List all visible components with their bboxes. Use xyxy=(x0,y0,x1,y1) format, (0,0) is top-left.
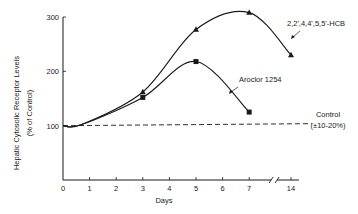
control-sublabel: (±10-20%) xyxy=(311,121,346,130)
x-tick-label: 0 xyxy=(61,184,65,193)
series-group xyxy=(63,9,294,127)
series-line-aroclor xyxy=(63,61,249,127)
x-tick-label: 6 xyxy=(221,184,225,193)
x-tick-label: 2 xyxy=(114,184,118,193)
y-axis-sublabel: (% of Control) xyxy=(25,89,34,136)
marker-aroclor xyxy=(140,95,145,100)
marker-aroclor xyxy=(247,110,252,115)
y-tick-label: 200 xyxy=(46,67,59,76)
x-axis-label: Days xyxy=(155,196,172,205)
x-tick-label: 3 xyxy=(141,184,145,193)
y-axis-label: Hepatic Cytosolic Receptor Levels xyxy=(12,56,21,170)
y-tick-label: 100 xyxy=(46,122,59,131)
series-line-hcb xyxy=(63,11,291,127)
marker-aroclor xyxy=(194,59,199,64)
y-tick-label: 300 xyxy=(46,13,59,22)
control-reference-line xyxy=(63,124,312,126)
x-tick-label: 7 xyxy=(247,184,251,193)
x-tick-label: 4 xyxy=(167,184,171,193)
hcb-annotation: 2,2',4,4',5,5'-HCB xyxy=(287,19,345,28)
reference-line-group xyxy=(63,124,312,126)
chart: 0123456714100200300 Hepatic Cytosolic Re… xyxy=(0,0,358,214)
aroclor-annotation: Aroclor 1254 xyxy=(239,75,282,84)
hcb-annotation-arrow xyxy=(293,31,300,37)
axes: 0123456714100200300 xyxy=(46,13,299,193)
marker-hcb xyxy=(193,26,199,31)
aroclor-annotation-arrow xyxy=(231,87,238,92)
x-tick-label: 14 xyxy=(287,184,295,193)
x-tick-label: 1 xyxy=(88,184,92,193)
control-label: Control xyxy=(316,110,341,119)
x-tick-label: 5 xyxy=(194,184,198,193)
